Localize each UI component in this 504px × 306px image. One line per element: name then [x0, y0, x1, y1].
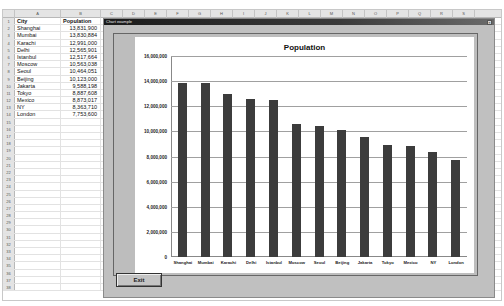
row-header[interactable]: 5 [3, 47, 15, 53]
cell-city[interactable]: Mexico [15, 97, 61, 103]
row-header[interactable]: 20 [3, 155, 15, 161]
row-header[interactable]: 29 [3, 219, 15, 225]
row-header[interactable]: 35 [3, 262, 15, 268]
row-header[interactable]: 33 [3, 248, 15, 254]
cell-empty[interactable] [15, 169, 61, 175]
cell-city[interactable]: Seoul [15, 68, 61, 74]
cell-empty[interactable] [61, 176, 101, 182]
cell-empty[interactable] [61, 219, 101, 225]
row-header[interactable]: 17 [3, 133, 15, 139]
row-header[interactable]: 26 [3, 198, 15, 204]
cell-empty[interactable] [15, 176, 61, 182]
column-header-i[interactable]: I [233, 10, 255, 18]
row-header[interactable]: 9 [3, 76, 15, 82]
row-header[interactable]: 15 [3, 119, 15, 125]
cell-city[interactable]: City [15, 18, 61, 24]
cell-city[interactable]: Tokyo [15, 90, 61, 96]
cell-empty[interactable] [15, 270, 61, 276]
cell-population[interactable]: 13,831,900 [61, 25, 101, 31]
row-header[interactable]: 25 [3, 191, 15, 197]
cell-empty[interactable] [61, 212, 101, 218]
row-header[interactable]: 30 [3, 226, 15, 232]
row-header[interactable]: 14 [3, 111, 15, 117]
cell-empty[interactable] [61, 241, 101, 247]
cell-empty[interactable] [15, 133, 61, 139]
cell-population[interactable]: 7,753,600 [61, 111, 101, 117]
cell-empty[interactable] [61, 191, 101, 197]
row-header[interactable]: 31 [3, 234, 15, 240]
cell-empty[interactable] [61, 126, 101, 132]
cell-population[interactable]: 12,517,664 [61, 54, 101, 60]
select-all-corner[interactable] [3, 10, 15, 18]
cell-empty[interactable] [15, 234, 61, 240]
cell-empty[interactable] [15, 241, 61, 247]
cell-city[interactable]: Delhi [15, 47, 61, 53]
cell-empty[interactable] [61, 270, 101, 276]
column-header-a[interactable]: A [15, 10, 61, 18]
row-header[interactable]: 1 [3, 18, 15, 24]
cell-empty[interactable] [15, 126, 61, 132]
cell-population[interactable]: 12,565,901 [61, 47, 101, 53]
row-header[interactable]: 36 [3, 270, 15, 276]
cell-empty[interactable] [15, 262, 61, 268]
column-header-c[interactable]: C [101, 10, 123, 18]
dialog-titlebar[interactable]: Chart example × [104, 19, 494, 25]
cell-empty[interactable] [15, 205, 61, 211]
cell-empty[interactable] [15, 198, 61, 204]
cell-empty[interactable] [15, 162, 61, 168]
cell-empty[interactable] [61, 248, 101, 254]
row-header[interactable]: 4 [3, 40, 15, 46]
cell-empty[interactable] [15, 212, 61, 218]
cell-empty[interactable] [15, 219, 61, 225]
cell-empty[interactable] [61, 205, 101, 211]
exit-button[interactable]: Exit [116, 273, 162, 287]
row-header[interactable]: 16 [3, 126, 15, 132]
cell-empty[interactable] [61, 162, 101, 168]
column-header-k[interactable]: K [277, 10, 299, 18]
cell-empty[interactable] [61, 226, 101, 232]
column-header-n[interactable]: N [343, 10, 365, 18]
cell-population[interactable]: 8,873,017 [61, 97, 101, 103]
row-header[interactable]: 6 [3, 54, 15, 60]
column-header-h[interactable]: H [211, 10, 233, 18]
column-header-q[interactable]: Q [409, 10, 431, 18]
column-header-f[interactable]: F [167, 10, 189, 18]
cell-empty[interactable] [61, 183, 101, 189]
cell-city[interactable]: Beijing [15, 76, 61, 82]
row-header[interactable]: 8 [3, 68, 15, 74]
cell-population[interactable]: 13,830,884 [61, 32, 101, 38]
cell-empty[interactable] [61, 119, 101, 125]
cell-city[interactable]: Shanghai [15, 25, 61, 31]
cell-empty[interactable] [15, 284, 61, 290]
cell-city[interactable]: Karachi [15, 40, 61, 46]
row-header[interactable]: 28 [3, 212, 15, 218]
cell-population[interactable]: 8,363,710 [61, 104, 101, 110]
column-header-m[interactable]: M [321, 10, 343, 18]
row-header[interactable]: 13 [3, 104, 15, 110]
cell-empty[interactable] [15, 191, 61, 197]
cell-empty[interactable] [15, 277, 61, 283]
row-header[interactable]: 19 [3, 147, 15, 153]
row-header[interactable]: 27 [3, 205, 15, 211]
row-header[interactable]: 3 [3, 32, 15, 38]
column-header-e[interactable]: E [145, 10, 167, 18]
row-header[interactable]: 7 [3, 61, 15, 67]
cell-empty[interactable] [15, 140, 61, 146]
row-header[interactable]: 10 [3, 83, 15, 89]
row-header[interactable]: 37 [3, 277, 15, 283]
cell-empty[interactable] [61, 140, 101, 146]
row-header[interactable]: 11 [3, 90, 15, 96]
cell-empty[interactable] [61, 255, 101, 261]
cell-empty[interactable] [61, 198, 101, 204]
row-header[interactable]: 22 [3, 169, 15, 175]
column-header-d[interactable]: D [123, 10, 145, 18]
row-header[interactable]: 18 [3, 140, 15, 146]
cell-population[interactable]: Population [61, 18, 101, 24]
cell-population[interactable]: 8,887,608 [61, 90, 101, 96]
cell-city[interactable]: Moscow [15, 61, 61, 67]
cell-city[interactable]: Mumbai [15, 32, 61, 38]
cell-empty[interactable] [61, 147, 101, 153]
cell-empty[interactable] [15, 255, 61, 261]
column-header-l[interactable]: L [299, 10, 321, 18]
column-header-g[interactable]: G [189, 10, 211, 18]
